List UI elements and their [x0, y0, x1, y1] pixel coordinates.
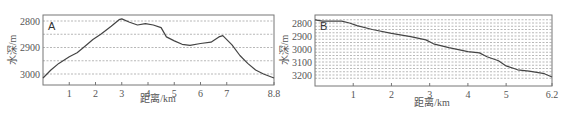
x-tick-label: 6 — [198, 88, 203, 99]
panel-label-a: A — [48, 20, 56, 32]
y-tick-label: 2900 — [292, 31, 312, 42]
x-axis-title-b: 距离/km — [414, 96, 450, 108]
x-tick-label: 2 — [93, 88, 98, 99]
x-tick-label: 2 — [389, 89, 394, 100]
x-tick-label: 4 — [465, 89, 470, 100]
depth-profile-line-a — [43, 19, 274, 78]
y-tick-label: 2900 — [20, 42, 40, 53]
panel-label-b: B — [320, 20, 327, 32]
chart-panel-a: A 280029003000 12345678.8 距离/km 水深/m — [7, 15, 280, 104]
x-tick-label: 1 — [351, 89, 356, 100]
y-tick-label: 2800 — [292, 18, 312, 29]
y-tick-label: 3200 — [292, 70, 312, 81]
gridlines-a — [43, 21, 274, 74]
y-ticks-b: 28002900300031003200 — [292, 18, 312, 81]
y-axis-title-b: 水深/m — [279, 35, 290, 66]
x-tick-label: 5 — [504, 89, 509, 100]
x-axis-title-a: 距离/km — [140, 92, 176, 104]
y-tick-label: 3100 — [292, 57, 312, 68]
plot-frame-a — [43, 15, 274, 85]
y-tick-label: 2800 — [20, 16, 40, 27]
y-axis-title-a: 水深/m — [7, 35, 18, 66]
x-tick-label: 1 — [67, 88, 72, 99]
y-ticks-a: 280029003000 — [20, 16, 40, 80]
y-tick-label: 3000 — [292, 44, 312, 55]
x-tick-label: 6.2 — [546, 89, 559, 100]
chart-panel-b: B 28002900300031003200 123456.2 距离/km 水深… — [279, 15, 558, 108]
x-tick-label: 3 — [119, 88, 124, 99]
y-tick-label: 3000 — [20, 69, 40, 80]
chart-canvas: A 280029003000 12345678.8 距离/km 水深/m B 2… — [0, 0, 564, 138]
x-tick-label: 7 — [224, 88, 229, 99]
x-tick-label: 8.8 — [268, 88, 281, 99]
